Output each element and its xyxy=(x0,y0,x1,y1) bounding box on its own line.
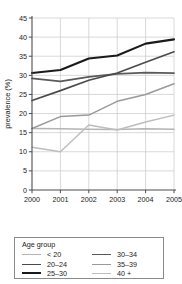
line-chart-svg: 051015202530354045 200020012002200320042… xyxy=(0,0,182,208)
plot-area: 051015202530354045 200020012002200320042… xyxy=(0,0,182,208)
legend-column-right: 30–3435–3940 + xyxy=(92,250,137,278)
legend-entry: 35–39 xyxy=(92,259,137,268)
legend-title: Age group xyxy=(22,240,55,249)
legend-swatch-line xyxy=(92,264,111,265)
y-tick-label: 45 xyxy=(19,14,27,23)
legend-entry: < 20 xyxy=(22,250,67,259)
x-tick-label: 2003 xyxy=(109,195,125,204)
prevalence-by-age-group-figure: 051015202530354045 200020012002200320042… xyxy=(0,0,182,284)
y-tick-label: 30 xyxy=(19,71,27,80)
legend-label: < 20 xyxy=(47,250,61,259)
series-line-35-39 xyxy=(32,84,174,129)
legend-label: 40 + xyxy=(117,269,131,278)
y-tick-label: 0 xyxy=(23,186,27,195)
legend-label: 35–39 xyxy=(117,260,137,269)
x-tick-label: 2000 xyxy=(24,195,40,204)
y-axis-ticks: 051015202530354045 xyxy=(19,14,32,195)
x-axis-title: year xyxy=(96,207,111,208)
x-tick-label: 2002 xyxy=(81,195,97,204)
legend-entry: 40 + xyxy=(92,269,137,278)
y-tick-label: 25 xyxy=(19,90,27,99)
y-tick-label: 10 xyxy=(19,147,27,156)
y-tick-label: 20 xyxy=(19,109,27,118)
legend-label: 30–34 xyxy=(117,250,137,259)
y-tick-label: 35 xyxy=(19,52,27,61)
legend-entry: 30–34 xyxy=(92,250,137,259)
legend-entry: 25–30 xyxy=(22,269,67,278)
series-line-40- xyxy=(32,115,174,152)
legend-swatch-line xyxy=(92,273,111,274)
legend-swatch-line xyxy=(22,272,41,274)
legend-swatch-line xyxy=(22,264,41,265)
legend: Age group < 2020–2425–30 30–3435–3940 + xyxy=(14,237,164,279)
y-axis-title: prevalence (%) xyxy=(3,79,12,129)
legend-column-left: < 2020–2425–30 xyxy=(22,250,67,278)
y-tick-label: 40 xyxy=(19,33,27,42)
legend-entry: 20–24 xyxy=(22,259,67,268)
x-tick-label: 2001 xyxy=(52,195,68,204)
legend-swatch-line xyxy=(92,254,111,255)
series-line--20 xyxy=(32,128,174,129)
legend-label: 25–30 xyxy=(47,269,67,278)
legend-swatch-line xyxy=(22,254,41,255)
legend-label: 20–24 xyxy=(47,260,67,269)
series-line-20-24 xyxy=(32,52,174,101)
y-tick-label: 15 xyxy=(19,128,27,137)
gridlines xyxy=(32,18,174,190)
x-axis-ticks: 200020012002200320042005 xyxy=(24,190,182,204)
y-tick-label: 5 xyxy=(23,166,27,175)
x-tick-label: 2005 xyxy=(166,195,182,204)
x-tick-label: 2004 xyxy=(138,195,154,204)
